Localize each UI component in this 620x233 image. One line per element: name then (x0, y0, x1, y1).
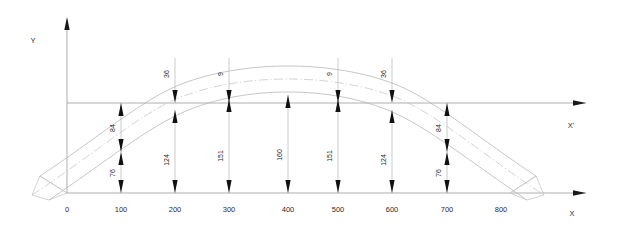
dim-label-lower-600: 124 (380, 154, 387, 166)
arch-diagram-svg: 36 9 9 36 84 84 76 (0, 0, 620, 233)
diagram-canvas: 36 9 9 36 84 84 76 (0, 0, 620, 233)
arch-left-end-cut (32, 176, 67, 200)
y-axis-label: Y (30, 36, 35, 45)
x-axis (67, 190, 586, 195)
dimension-lower-200: 124 (163, 110, 178, 193)
dim-label-above-200: 36 (163, 70, 170, 78)
x-tick-300: 300 (223, 205, 236, 214)
xprime-axis-label: X' (568, 121, 575, 130)
dim-label-lower-400: 160 (276, 149, 283, 161)
dimension-above-200: 36 (163, 58, 178, 103)
x-axis-label: X (569, 209, 574, 218)
dimension-lower-100: 76 (109, 152, 124, 193)
x-tick-500: 500 (332, 205, 345, 214)
x-tick-0: 0 (65, 205, 69, 214)
x-tick-400: 400 (282, 205, 295, 214)
dimension-lower-700: 76 (435, 152, 450, 193)
dimension-lower-400: 160 (276, 95, 291, 193)
dim-label-upper-100: 84 (109, 124, 116, 132)
dim-label-lower-300: 151 (217, 150, 224, 162)
x-tick-100: 100 (115, 205, 128, 214)
dim-label-above-300: 9 (217, 72, 224, 76)
y-axis (64, 17, 69, 193)
dim-label-lower-500: 151 (326, 150, 333, 162)
dimension-above-500: 9 (326, 58, 341, 103)
dim-label-above-500: 9 (326, 72, 333, 76)
x-tick-700: 700 (441, 205, 454, 214)
dimension-lower-300: 151 (217, 99, 232, 193)
x-tick-200: 200 (169, 205, 182, 214)
dim-label-lower-700: 76 (435, 169, 442, 177)
x-tick-600: 600 (386, 205, 399, 214)
dimension-lower-500: 151 (326, 99, 341, 193)
dim-label-lower-200: 124 (163, 154, 170, 166)
dimension-above-600: 36 (380, 58, 395, 103)
dimension-lower-600: 124 (380, 110, 395, 193)
dimension-above-300: 9 (217, 58, 232, 103)
dim-label-upper-700: 84 (435, 124, 442, 132)
arch-right-end-cut (510, 176, 544, 200)
dim-label-lower-100: 76 (109, 169, 116, 177)
x-tick-800: 800 (495, 205, 508, 214)
dim-label-above-600: 36 (380, 70, 387, 78)
x-axis-tick-labels: 0 100 200 300 400 500 600 700 800 (65, 205, 507, 214)
dimension-upper-100: 84 (109, 103, 124, 152)
